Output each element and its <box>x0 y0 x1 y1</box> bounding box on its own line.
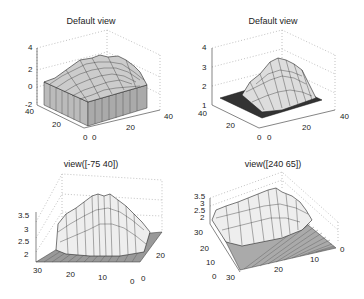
z-tick: 2 <box>28 66 32 74</box>
x-tick: 10 <box>310 256 319 264</box>
y-tick: 0 <box>257 134 261 142</box>
y-tick: 20 <box>200 245 209 253</box>
surface-plot-graphic <box>182 0 364 150</box>
y-tick: 20 <box>52 121 61 129</box>
x-tick: 40 <box>164 113 173 121</box>
surface-plot-graphic <box>182 150 364 299</box>
x-tick: 0 <box>340 246 344 254</box>
z-tick: 3.5 <box>18 212 29 220</box>
x-tick: 10 <box>98 274 107 282</box>
x-tick: 30 <box>226 274 235 282</box>
surface-plot-graphic <box>0 0 182 150</box>
z-tick: 2 <box>24 251 28 259</box>
x-tick: 20 <box>126 124 135 132</box>
surface-plot-default-view-2: Default view 4 3 2 1 40 20 0 0 20 40 <box>182 0 364 150</box>
z-tick: 0 <box>28 83 32 91</box>
z-tick: 4 <box>28 44 32 52</box>
y-tick: 0 <box>83 134 87 142</box>
z-tick: 3 <box>24 226 28 234</box>
y-tick: 0 <box>212 273 216 281</box>
x-tick: 30 <box>33 267 42 275</box>
x-tick: 20 <box>302 124 311 132</box>
x-tick: 20 <box>66 271 75 279</box>
x-tick: 0 <box>267 134 271 142</box>
z-tick: 2.5 <box>18 238 29 246</box>
surface-plot-view-240-65: view([240 65]) 3.5 3 2.5 2 30 <box>182 150 364 299</box>
z-tick: 2 <box>200 214 204 222</box>
y-tick: 40 <box>198 110 207 118</box>
y-tick: 10 <box>206 259 215 267</box>
z-tick: 2 <box>202 83 206 91</box>
z-tick: 3 <box>202 64 206 72</box>
z-tick: 4 <box>202 44 206 52</box>
x-tick: 0 <box>92 134 96 142</box>
y-tick: 20 <box>156 252 165 260</box>
x-tick: 20 <box>274 266 283 274</box>
x-tick: 40 <box>340 113 349 121</box>
surface-plot-view-minus75-40: view([-75 40]) 3.5 3 2.5 <box>0 150 182 299</box>
y-tick: 30 <box>194 229 203 237</box>
x-tick: 0 <box>130 278 134 286</box>
y-tick: 0 <box>141 275 145 283</box>
surface-plot-default-view-1: Default view <box>0 0 182 150</box>
y-tick: 20 <box>226 122 235 130</box>
y-tick: 40 <box>25 108 34 116</box>
